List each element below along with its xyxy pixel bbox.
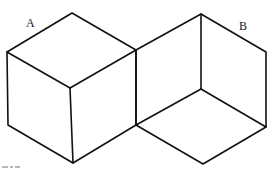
inner-edge bbox=[136, 89, 201, 125]
caption-fragment-mark bbox=[15, 166, 20, 168]
label-b: B bbox=[239, 19, 247, 33]
inner-edge bbox=[70, 88, 73, 163]
caption-fragment bbox=[2, 166, 32, 170]
cube-a bbox=[7, 13, 136, 163]
inner-edge bbox=[7, 52, 70, 88]
caption-fragment-mark bbox=[10, 166, 13, 168]
label-a: A bbox=[26, 16, 35, 30]
inner-edge bbox=[201, 89, 266, 127]
isometric-figures-diagram: A B bbox=[0, 0, 275, 173]
caption-fragment-mark bbox=[2, 166, 8, 168]
figure-b bbox=[136, 14, 266, 164]
inner-edge bbox=[70, 50, 136, 88]
